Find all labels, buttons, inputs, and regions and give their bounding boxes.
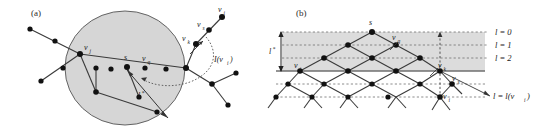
level-label-0: l = 0	[495, 27, 512, 37]
panel-b-leader-line	[440, 71, 490, 96]
label-vs-b: v	[452, 74, 456, 83]
panel-b: (b) l *	[268, 8, 530, 110]
label-lstar-b-sup: *	[273, 46, 276, 52]
node	[52, 38, 57, 43]
label-lstar-a-sup: *	[142, 90, 145, 96]
label-vk-sub: k	[188, 39, 191, 45]
node-s	[369, 29, 375, 35]
node	[321, 55, 327, 61]
level-label-2: l = 2	[495, 53, 512, 63]
node	[285, 81, 290, 86]
node	[60, 65, 65, 70]
node	[93, 89, 99, 95]
node	[417, 55, 423, 61]
node	[345, 94, 350, 99]
node-vs	[206, 27, 212, 33]
label-vq-sub: q	[148, 59, 151, 65]
label-vs-sub: s	[203, 25, 205, 31]
node	[369, 81, 374, 86]
bottom-label-sub: i	[524, 97, 526, 103]
node	[369, 55, 375, 61]
label-Ivi-close: )	[229, 55, 233, 64]
label-vj: v	[84, 43, 88, 52]
node	[345, 42, 351, 48]
node	[93, 65, 98, 70]
node	[163, 66, 168, 71]
label-vq: v	[142, 54, 146, 63]
label-vs-b-sub: s	[458, 79, 460, 85]
label-vi: v	[218, 5, 222, 14]
node	[183, 65, 189, 71]
label-vq-b: v	[392, 33, 396, 42]
label-vj-b: v	[294, 61, 298, 70]
node	[345, 68, 351, 74]
node-vj	[77, 51, 83, 57]
panel-b-leader-arrowhead	[483, 91, 490, 96]
label-vk-b: v	[438, 61, 442, 70]
level-label-1: l = 1	[495, 40, 512, 50]
label-Ivi-prefix: I(v	[213, 55, 223, 64]
node	[225, 102, 230, 107]
node	[233, 70, 238, 75]
node	[309, 94, 314, 99]
node	[321, 81, 326, 86]
node-vi	[437, 94, 443, 100]
label-vs: v	[197, 20, 201, 29]
panel-b-label: (b)	[296, 8, 307, 18]
bottom-label-suffix: )	[526, 91, 530, 101]
node	[393, 68, 399, 74]
label-s: s	[124, 53, 127, 62]
label-vi-b: v	[443, 92, 447, 101]
figure-container: (a)	[0, 0, 551, 129]
node	[38, 78, 43, 83]
label-vi-b-sub: i	[449, 97, 451, 103]
panel-a: (a)	[27, 5, 238, 125]
panel-a-label: (a)	[31, 8, 41, 18]
label-s-b: s	[369, 18, 372, 27]
label-vq-b-sub: q	[398, 38, 401, 44]
node	[27, 26, 32, 31]
node-vq	[142, 65, 147, 70]
node	[417, 81, 422, 86]
node-s	[124, 64, 130, 70]
bottom-label-prefix: l = l(v	[493, 91, 515, 101]
node	[385, 94, 390, 99]
node	[154, 109, 159, 114]
figure-svg: (a)	[0, 0, 551, 129]
label-Ivi-sub: i	[227, 60, 229, 66]
node	[209, 81, 215, 87]
label-vk: v	[182, 34, 186, 43]
node	[273, 94, 278, 99]
label-vi-sub: i	[224, 10, 226, 16]
node	[108, 66, 113, 71]
